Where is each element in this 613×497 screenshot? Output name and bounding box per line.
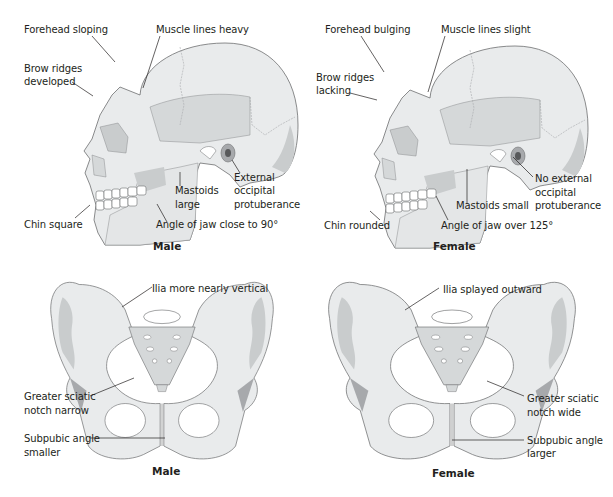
female-skull-occipital-label-line2: occipital [535,186,576,199]
female-skull-illustration [374,46,588,248]
female-pelvis-ilia-label: Ilia splayed outward [443,283,542,296]
male-skull-occipital-label-line2: occipital [234,184,275,197]
female-skull-occipital-label-line1: No external [535,172,592,185]
female-pelvis-illustration [329,282,576,459]
male-pelvis-caption: Male [152,465,180,477]
female-pelvis-subpubic-label-line1: Subpubic angle [527,434,603,447]
male-pelvis-sciatic-label-line1: Greater sciatic [24,390,96,403]
illustration-layer [0,0,613,497]
female-pelvis-sciatic-label-line2: notch wide [527,406,581,419]
male-skull-forehead-label: Forehead sloping [24,23,108,36]
female-skull-caption: Female [433,240,476,252]
female-skull-occipital-label-line3: protuberance [535,199,601,212]
female-pelvis-sciatic-label-line1: Greater sciatic [527,392,599,405]
female-pelvis-subpubic-label-line2: larger [527,447,556,460]
female-skull-chin-label: Chin rounded [324,219,390,232]
female-skull-brow-label-line1: Brow ridges [316,71,374,84]
male-skull-muscle-label: Muscle lines heavy [156,23,249,36]
male-skull-brow-label-line1: Brow ridges [24,62,82,75]
male-skull-mastoid-label-line1: Mastoids [175,184,219,197]
male-skull-brow-label-line2: developed [24,75,75,88]
male-skull-illustration [84,43,298,245]
male-skull-chin-label: Chin square [24,218,83,231]
female-skull-forehead-label: Forehead bulging [325,23,410,36]
female-skull-brow-label-line2: lacking [316,84,351,97]
male-skull-occipital-label-line3: protuberance [234,198,300,211]
male-skull-occipital-label-line1: External [234,171,275,184]
male-pelvis-subpubic-label-line1: Subpubic angle [24,432,100,445]
female-pelvis-caption: Female [432,467,475,479]
male-pelvis-subpubic-label-line2: smaller [24,446,60,459]
female-skull-mastoid-label: Mastoids small [456,199,529,212]
male-skull-caption: Male [153,240,181,252]
female-skull-jaw-label: Angle of jaw over 125° [441,219,553,232]
male-pelvis-sciatic-label-line2: notch narrow [24,404,89,417]
female-skull-muscle-label: Muscle lines slight [441,23,531,36]
male-pelvis-ilia-label: Ilia more nearly vertical [152,282,268,295]
male-skull-mastoid-label-line2: large [175,198,200,211]
male-skull-jaw-label: Angle of jaw close to 90° [156,218,278,231]
